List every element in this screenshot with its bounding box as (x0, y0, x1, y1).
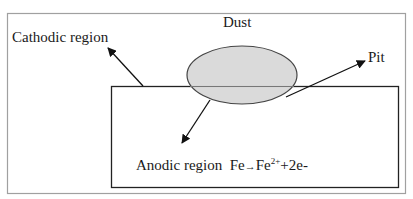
reaction-product: Fe (256, 157, 271, 173)
anodic-region-label: Anodic region Fe→Fe2++2e- (136, 158, 308, 173)
pit-label: Pit (368, 50, 385, 65)
reaction-reactant: Fe (230, 157, 245, 173)
reaction-arrow: → (245, 160, 256, 172)
reaction-electrons: +2e- (280, 157, 308, 173)
cathodic-arrow (108, 48, 143, 86)
dust-particle (187, 46, 297, 104)
dust-label: Dust (223, 15, 251, 30)
reaction-charge: 2+ (271, 156, 281, 166)
cathodic-region-label: Cathodic region (12, 30, 108, 45)
anodic-text: Anodic region (136, 157, 222, 173)
